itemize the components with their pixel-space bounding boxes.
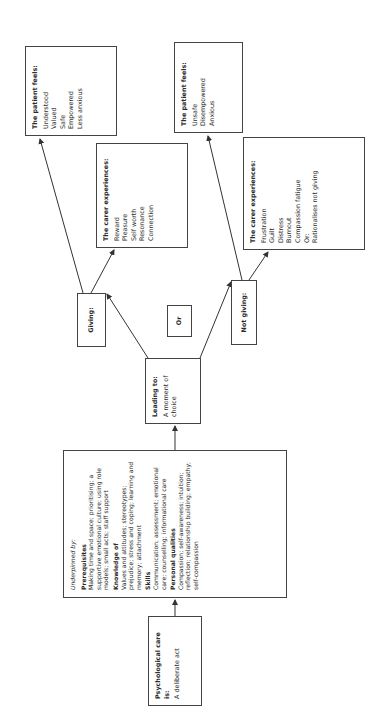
diagram-canvas: Psychological care is: A deliberate act … [0,0,370,728]
skills-heading: Skills [144,458,152,590]
underpinned-by-box: Underpinned by: Prerequisites Making tim… [63,450,287,598]
leading-to-body: A moment of choice [162,365,179,417]
prerequisites-text: Making time and space; prioritising; a s… [87,458,110,590]
list-item: Self worth [130,150,139,241]
list-item: Distress [277,144,286,243]
list-item: Reward [113,150,122,241]
list-item: Burnout [285,144,294,243]
giving-carer-title: The carer experiences: [102,150,111,241]
knowledge-heading: Knowledge of [112,458,120,590]
or-box: Or [167,305,192,337]
underpinned-intro: Underpinned by: [69,458,77,590]
psychological-care-body: A deliberate act [173,623,182,699]
giving-patient-box: The patient feels: Understood Valued Saf… [25,46,117,136]
not-giving-patient-title: The patient feels: [180,49,189,126]
list-item: Unsafe [191,49,200,126]
skills-text: Communication; assessment; emotional car… [152,458,167,590]
giving-patient-title: The patient feels: [31,53,40,129]
not-giving-label: Not giving: [240,293,249,333]
list-item: Guilt [268,144,277,243]
not-giving-patient-box: The patient feels: Unsafe Disempowered A… [174,42,243,133]
leading-to-title: Leading to: [151,365,160,417]
list-item: Connection [147,150,156,241]
list-item: Frustration [260,144,269,243]
list-item: Less anxious [76,53,85,129]
psychological-care-title: Psychological care is: [154,623,171,699]
list-item: Rationalises not giving [311,144,320,243]
list-item: Or: [303,144,312,243]
giving-box: Giving: [77,293,106,347]
list-item: Valued [50,53,59,129]
not-giving-carer-title: The carer experiences: [249,144,258,243]
list-item: Safe [59,53,68,129]
list-item: Resonance [138,150,147,241]
knowledge-text: Values and attitudes; stereotypes; preju… [120,458,143,590]
list-item: Anxious [208,49,217,126]
list-item: Understood [42,53,51,129]
personal-qualities-text: Compassion; self-awareness; intuition; r… [177,458,200,590]
list-item: Compassion fatigue [294,144,303,243]
leading-to-box: Leading to: A moment of choice [145,358,201,424]
psychological-care-box: Psychological care is: A deliberate act [148,616,202,706]
personal-qualities-heading: Personal qualities [169,458,177,590]
not-giving-carer-box: The carer experiences: Frustration Guilt… [243,137,365,250]
giving-label: Giving: [87,307,96,332]
or-label: Or [175,317,184,326]
list-item: Empowered [67,53,76,129]
list-item: Pleasure [121,150,130,241]
list-item: Disempowered [199,49,208,126]
prerequisites-heading: Prerequisites [80,458,88,590]
not-giving-box: Not giving: [231,280,257,345]
giving-carer-box: The carer experiences: Reward Pleasure S… [96,143,188,248]
